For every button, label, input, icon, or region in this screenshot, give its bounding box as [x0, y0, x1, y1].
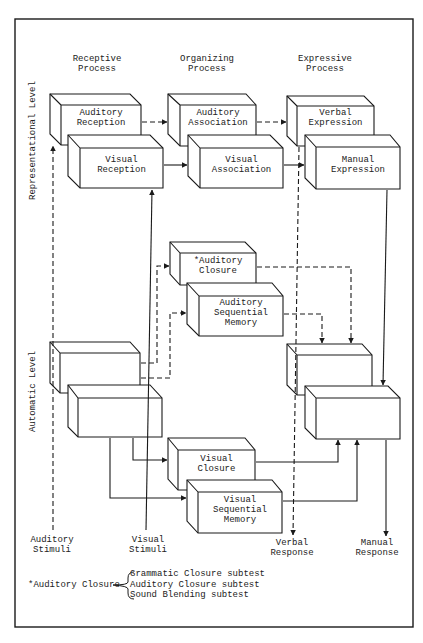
label-visual-reception: Visual Reception: [80, 155, 163, 175]
header-line: Process: [290, 64, 360, 74]
header-line: Receptive: [62, 54, 132, 64]
header-organizing-process: Organizing Process: [172, 54, 242, 74]
io-line: Stimuli: [118, 545, 178, 555]
box-line: Reception: [80, 165, 163, 175]
box-line: Auditory: [199, 298, 283, 308]
level-label-representational: Representational Level: [28, 81, 38, 200]
box-line: Manual: [316, 155, 400, 165]
box-line: Auditory: [61, 108, 141, 118]
label-manual-response: Manual Response: [347, 538, 407, 558]
box-line: Memory: [199, 318, 283, 328]
label-manual-expression: Manual Expression: [316, 155, 400, 175]
box-line: Auditory: [180, 108, 256, 118]
box-line: Visual: [80, 155, 163, 165]
footnote-item: Sound Blending subtest: [130, 590, 265, 601]
io-line: Verbal: [262, 538, 322, 548]
io-line: Response: [347, 548, 407, 558]
io-line: Visual: [118, 535, 178, 545]
footnote-items: Grammatic Closure subtest Auditory Closu…: [130, 569, 265, 601]
box-line: Association: [180, 118, 256, 128]
box-line: Visual: [178, 454, 255, 464]
box-automatic-manual: [305, 386, 400, 439]
box-line: Verbal: [297, 108, 374, 118]
label-visual-stimuli: Visual Stimuli: [118, 535, 178, 555]
box-line: Closure: [178, 464, 255, 474]
footnote-item: Auditory Closure subtest: [130, 580, 265, 591]
label-visual-sequential-memory: Visual Sequential Memory: [198, 495, 282, 525]
box-line: *Auditory: [180, 256, 256, 266]
header-expressive-process: Expressive Process: [290, 54, 360, 74]
label-verbal-expression: Verbal Expression: [297, 108, 374, 128]
footnote-item: Grammatic Closure subtest: [130, 569, 265, 580]
io-line: Response: [262, 548, 322, 558]
box-line: Sequential: [198, 505, 282, 515]
label-auditory-association: Auditory Association: [180, 108, 256, 128]
label-auditory-sequential-memory: Auditory Sequential Memory: [199, 298, 283, 328]
box-line: Association: [200, 165, 283, 175]
label-auditory-closure: *Auditory Closure: [180, 256, 256, 276]
label-visual-closure: Visual Closure: [178, 454, 255, 474]
header-line: Organizing: [172, 54, 242, 64]
label-visual-association: Visual Association: [200, 155, 283, 175]
label-verbal-response: Verbal Response: [262, 538, 322, 558]
header-line: Expressive: [290, 54, 360, 64]
box-line: Visual: [200, 155, 283, 165]
box-line: Sequential: [199, 308, 283, 318]
footnote-term: *Auditory Closure: [28, 580, 120, 591]
box-line: Expression: [297, 118, 374, 128]
level-label-automatic: Automatic Level: [28, 351, 38, 432]
box-line: Memory: [198, 515, 282, 525]
io-line: Stimuli: [22, 545, 82, 555]
header-receptive-process: Receptive Process: [62, 54, 132, 74]
label-auditory-reception: Auditory Reception: [61, 108, 141, 128]
io-line: Auditory: [22, 535, 82, 545]
header-line: Process: [62, 64, 132, 74]
label-auditory-stimuli: Auditory Stimuli: [22, 535, 82, 555]
box-line: Reception: [61, 118, 141, 128]
io-line: Manual: [347, 538, 407, 548]
box-line: Closure: [180, 266, 256, 276]
box-line: Visual: [198, 495, 282, 505]
box-line: Expression: [316, 165, 400, 175]
header-line: Process: [172, 64, 242, 74]
